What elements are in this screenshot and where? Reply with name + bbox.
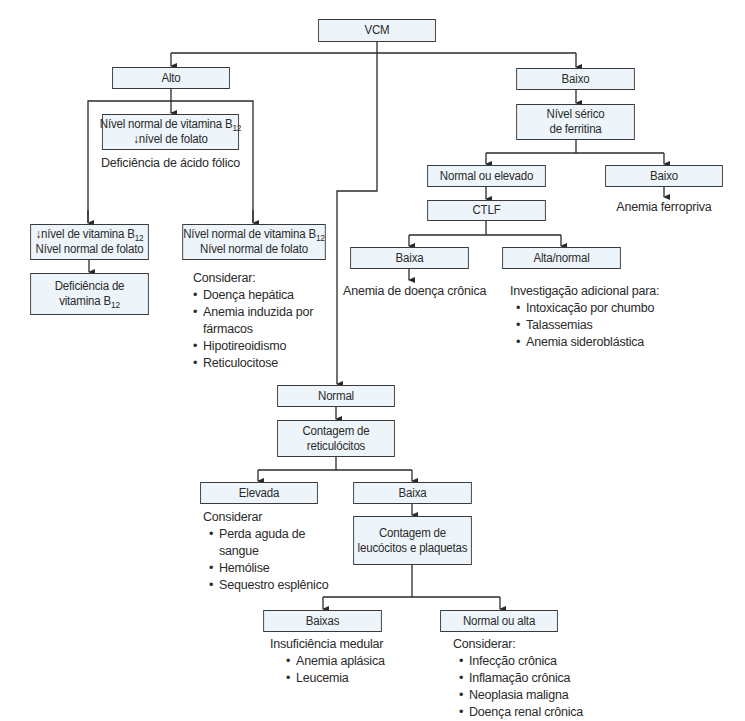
node-b12-normal-folato-baixo: Nível normal de vitamina B12 ↓nível de f…: [102, 114, 239, 150]
note-anemia-ferropriva: Anemia ferropriva: [600, 199, 728, 216]
note-item: Infecção crônica: [459, 653, 583, 670]
note-title: Insuficiência medular: [270, 636, 385, 653]
note-item: Neoplasia maligna: [459, 687, 583, 704]
node-label: Baixo: [562, 72, 590, 87]
note-investigacao-adicional: Investigação adicional para: Intoxicação…: [510, 283, 659, 351]
node-label-line1: ↓nível de vitamina B12: [35, 227, 143, 242]
node-label-line2: Nível normal de folato: [200, 242, 308, 257]
note-considerar-normal-alta: Considerar: Infecção crônica Inflamação …: [453, 636, 583, 721]
node-baixo-vcm: Baixo: [516, 68, 635, 90]
note-title: Considerar: [203, 509, 328, 526]
node-label: Elevada: [239, 486, 279, 501]
node-label: CTLF: [472, 203, 500, 218]
note-considerar-normal-normal: Considerar: Doença hepática Anemia induz…: [193, 270, 313, 372]
node-label: Alta/normal: [533, 251, 589, 266]
note-title: Investigação adicional para:: [510, 283, 659, 300]
node-alta-normal: Alta/normal: [502, 247, 621, 269]
node-label: Baixo: [650, 169, 678, 184]
node-label-line2: reticulócitos: [307, 439, 365, 454]
note-item: Leucemia: [286, 670, 385, 687]
node-contagem-leucocitos: Contagem de leucócitos e plaquetas: [353, 516, 472, 565]
node-label-line2: de ferritina: [549, 122, 601, 137]
note-item: Sequestro esplênico: [209, 577, 328, 594]
note-item: Doença renal crônica: [459, 704, 583, 721]
note-item-continuation: fármacos: [193, 321, 313, 338]
node-contagem-reticulocitos: Contagem de reticulócitos: [277, 420, 395, 457]
node-label: Normal ou elevado: [440, 169, 533, 184]
note-deficiencia-acido-folico: Deficiência de ácido fólico: [96, 155, 245, 172]
note-item: Hipotireoidismo: [193, 338, 313, 355]
note-item: Reticulocitose: [193, 355, 313, 372]
note-item: Hemólise: [209, 560, 328, 577]
note-item: Talassemias: [516, 317, 659, 334]
node-b12-normal-folato-normal: Nível normal de vitamina B12 Nível norma…: [182, 224, 326, 260]
node-label-line1: Contagem de: [302, 424, 369, 439]
node-label: Normal ou alta: [463, 614, 535, 629]
node-label-line1: Contagem de: [379, 526, 446, 541]
note-anemia-doenca-cronica: Anemia de doença crônica: [343, 283, 486, 300]
node-label-line1: Deficiência de: [55, 279, 125, 294]
node-baixas: Baixas: [263, 610, 382, 632]
node-deficiencia-b12: Deficiência de vitamina B12: [30, 273, 149, 315]
node-baixa-retic: Baixa: [353, 482, 472, 504]
node-ctlf: CTLF: [427, 200, 546, 221]
node-label-line2: leucócitos e plaquetas: [358, 541, 468, 556]
node-label-line2: ↓nível de folato: [133, 132, 207, 147]
node-ferritina: Nível sérico de ferritina: [516, 104, 635, 140]
node-normal-ou-elevado: Normal ou elevado: [427, 165, 546, 187]
note-item: Perda aguda de: [209, 526, 328, 543]
node-label-line2: Nível normal de folato: [36, 242, 144, 257]
note-item: Inflamação crônica: [459, 670, 583, 687]
note-title: Considerar:: [193, 270, 313, 287]
node-baixa-ctlf: Baixa: [350, 247, 469, 269]
node-label-line1: Nível normal de vitamina B12: [183, 227, 324, 242]
node-label: Baixa: [396, 251, 424, 266]
node-label-line1: Nível sérico: [547, 107, 605, 122]
note-item: Anemia sideroblástica: [516, 334, 659, 351]
note-considerar-elevada: Considerar Perda aguda de sangue Hemólis…: [203, 509, 328, 594]
note-insuficiencia-medular: Insuficiência medular Anemia aplásica Le…: [270, 636, 385, 687]
node-alto: Alto: [112, 67, 230, 89]
note-title: Considerar:: [453, 636, 583, 653]
node-label: Normal: [318, 389, 354, 404]
note-item-continuation: sangue: [209, 543, 328, 560]
node-b12-baixo-folato-normal: ↓nível de vitamina B12 Nível normal de f…: [30, 224, 149, 260]
node-elevada: Elevada: [200, 482, 318, 504]
node-label: Baixas: [306, 614, 339, 629]
node-label-line2: vitamina B12: [59, 294, 120, 309]
node-label: VCM: [364, 23, 389, 38]
node-normal: Normal: [277, 385, 395, 407]
note-item: Anemia aplásica: [286, 653, 385, 670]
node-baixo-ferritina: Baixo: [605, 165, 723, 187]
node-label-line1: Nível normal de vitamina B12: [100, 117, 241, 132]
note-item: Anemia induzida por: [193, 304, 313, 321]
note-item: Intoxicação por chumbo: [516, 300, 659, 317]
node-vcm: VCM: [318, 19, 436, 42]
node-normal-ou-alta: Normal ou alta: [440, 610, 558, 632]
node-label: Baixa: [399, 486, 427, 501]
note-item: Doença hepática: [193, 287, 313, 304]
node-label: Alto: [161, 71, 180, 86]
